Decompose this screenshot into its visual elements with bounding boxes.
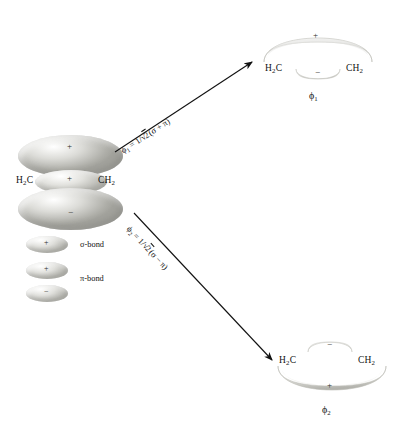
reactant-right-atom-label: CH2	[98, 175, 115, 186]
arrow-to-phi2	[0, 0, 400, 433]
reactant-left-atom-label: H2C	[16, 175, 33, 186]
figure-canvas: + + − H2C CH2 + σ-bond + − π-bond	[0, 0, 400, 433]
